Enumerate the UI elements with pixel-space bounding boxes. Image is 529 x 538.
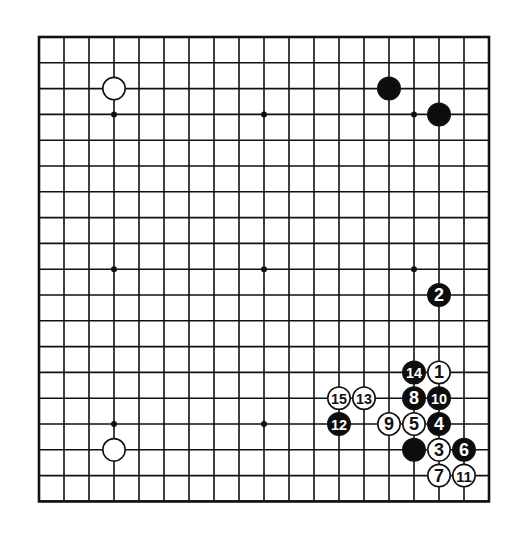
go-board: 123456789101112131415 [0, 0, 529, 538]
move-number-label: 6 [459, 440, 469, 460]
black-stone-move-8: 8 [403, 387, 425, 409]
white-stone-move-5: 5 [403, 413, 425, 435]
star-point [111, 421, 117, 427]
black-stone-move-10: 10 [428, 387, 450, 409]
move-number-label: 1 [434, 362, 444, 382]
black-stone-circle [428, 103, 450, 125]
white-stone-move-7: 7 [428, 464, 450, 486]
star-point [261, 266, 267, 272]
move-number-label: 14 [406, 364, 423, 381]
star-point [111, 111, 117, 117]
white-stone-move-15: 15 [328, 387, 350, 409]
black-stone-move-14: 14 [403, 361, 425, 383]
move-number-label: 3 [434, 440, 444, 460]
white-stone [103, 439, 125, 461]
star-point [111, 266, 117, 272]
white-stone-move-1: 1 [428, 361, 450, 383]
black-stone-circle [403, 439, 425, 461]
black-stone [403, 439, 425, 461]
white-stone-move-3: 3 [428, 439, 450, 461]
move-number-label: 8 [409, 388, 419, 408]
white-stone-move-13: 13 [353, 387, 375, 409]
white-stone-move-11: 11 [453, 464, 475, 486]
move-number-label: 12 [331, 416, 347, 433]
move-number-label: 11 [456, 468, 472, 485]
star-point [261, 111, 267, 117]
move-number-label: 15 [331, 390, 347, 407]
star-point [411, 111, 417, 117]
black-stone-circle [378, 77, 400, 99]
black-stone-move-6: 6 [453, 439, 475, 461]
move-number-label: 10 [431, 390, 447, 407]
black-stone-move-2: 2 [428, 284, 450, 306]
black-stone-move-4: 4 [428, 413, 450, 435]
black-stone [378, 77, 400, 99]
black-stone-move-12: 12 [328, 413, 350, 435]
star-point [411, 266, 417, 272]
move-number-label: 9 [384, 414, 394, 434]
move-number-label: 4 [434, 414, 444, 434]
white-stone-circle [103, 439, 125, 461]
move-number-label: 2 [434, 285, 444, 305]
star-point [261, 421, 267, 427]
move-number-label: 5 [409, 414, 419, 434]
white-stone-move-9: 9 [378, 413, 400, 435]
move-number-label: 7 [434, 466, 444, 486]
black-stone [428, 103, 450, 125]
move-number-label: 13 [356, 390, 372, 407]
white-stone [103, 77, 125, 99]
white-stone-circle [103, 77, 125, 99]
